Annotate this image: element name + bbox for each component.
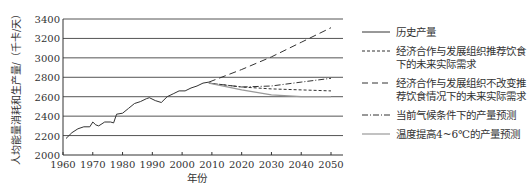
- x-tick-label: 2050: [318, 159, 343, 170]
- y-tick-label: 3200: [35, 33, 60, 44]
- legend-label: 经济合作与发展组织推荐饮食下的未来实际需求: [396, 45, 528, 71]
- legend-item-oecd-unchanged: 经济合作与发展组织不改变推荐饮食情况下的未来实际需求: [362, 77, 528, 103]
- legend-item-current-climate: 当前气候条件下的产量预测: [362, 109, 528, 122]
- legend-swatch-short-dash-icon: [362, 45, 390, 57]
- chart-legend: 历史产量 经济合作与发展组织推荐饮食下的未来实际需求 经济合作与发展组织不改变推…: [362, 26, 528, 147]
- series-line-4: [209, 83, 331, 97]
- x-tick-label: 1960: [50, 159, 75, 170]
- y-tick-label: 3400: [35, 14, 60, 25]
- y-axis-label: 人均能量消耗和生产量/（千卡/天）: [10, 9, 22, 166]
- x-tick-label: 1980: [110, 159, 135, 170]
- series-line-0: [66, 82, 209, 138]
- y-tick-label: 2200: [35, 131, 60, 142]
- legend-item-history: 历史产量: [362, 26, 528, 39]
- legend-item-warming: 温度提高4~6℃的产量预测: [362, 128, 528, 141]
- series-line-2: [209, 28, 331, 82]
- legend-swatch-dash-dot-icon: [362, 109, 390, 121]
- x-tick-label: 2000: [169, 159, 194, 170]
- x-tick-label: 2020: [229, 159, 254, 170]
- x-tick-label: 1990: [140, 159, 165, 170]
- series-line-3: [209, 78, 331, 87]
- legend-item-oecd-recommended: 经济合作与发展组织推荐饮食下的未来实际需求: [362, 45, 528, 71]
- y-tick-label: 2600: [35, 92, 60, 103]
- legend-swatch-solid-icon: [362, 26, 390, 38]
- legend-swatch-long-dash-icon: [362, 77, 390, 89]
- x-tick-label: 2010: [199, 159, 224, 170]
- x-tick-label: 2030: [259, 159, 284, 170]
- x-axis-label: 年份: [187, 172, 208, 184]
- legend-label: 温度提高4~6℃的产量预测: [396, 128, 520, 141]
- legend-label: 当前气候条件下的产量预测: [396, 109, 516, 122]
- y-tick-label: 3000: [35, 53, 60, 64]
- y-tick-label: 2800: [35, 72, 60, 83]
- legend-swatch-gray-solid-icon: [362, 128, 390, 140]
- x-tick-label: 2040: [288, 159, 313, 170]
- legend-label: 经济合作与发展组织不改变推荐饮食情况下的未来实际需求: [396, 77, 528, 103]
- x-tick-label: 1970: [80, 159, 105, 170]
- legend-label: 历史产量: [396, 26, 436, 39]
- y-tick-label: 2400: [35, 111, 60, 122]
